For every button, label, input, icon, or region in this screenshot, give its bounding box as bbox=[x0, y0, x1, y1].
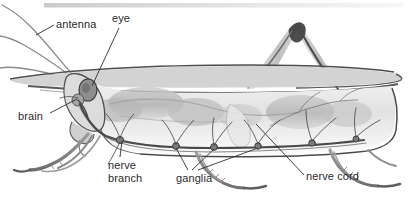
scan-band bbox=[44, 3, 404, 8]
antennae-group bbox=[0, 5, 72, 80]
grasshopper-illustration bbox=[0, 0, 415, 202]
leader-antenna bbox=[36, 25, 54, 35]
anatomy-figure: antenna eye brain nervebranch ganglia ne… bbox=[0, 0, 415, 202]
